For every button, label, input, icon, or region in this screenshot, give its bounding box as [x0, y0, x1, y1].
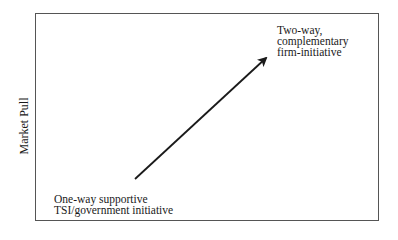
- label-one-way-government-initiative: One-way supportive TSI/government initia…: [54, 194, 173, 216]
- label-line: TSI/government initiative: [54, 205, 173, 216]
- label-two-way-firm-initiative: Two-way, complementary firm-initiative: [277, 25, 349, 58]
- label-line: firm-initiative: [277, 47, 349, 58]
- y-axis-label: Market Pull: [17, 98, 32, 155]
